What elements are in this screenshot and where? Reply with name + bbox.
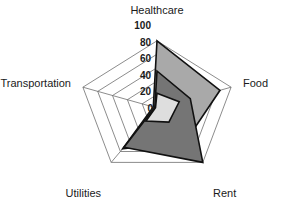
tick-label-20: 20	[140, 86, 152, 97]
tick-label-100: 100	[134, 20, 151, 31]
tick-label-0: 0	[147, 103, 153, 114]
tick-label-40: 40	[140, 70, 152, 81]
radar-chart: 100 80 60 40 20 0 Healthcare Food Rent U…	[0, 0, 286, 208]
radar-chart-svg: 100 80 60 40 20 0 Healthcare Food Rent U…	[0, 0, 286, 208]
axis-label-food: Food	[243, 77, 268, 89]
tick-label-60: 60	[140, 53, 152, 64]
axis-label-transportation: Transportation	[0, 77, 71, 89]
axis-label-utilities: Utilities	[66, 187, 102, 199]
axis-label-rent: Rent	[213, 187, 236, 199]
tick-label-80: 80	[140, 37, 152, 48]
axis-label-healthcare: Healthcare	[130, 4, 183, 16]
